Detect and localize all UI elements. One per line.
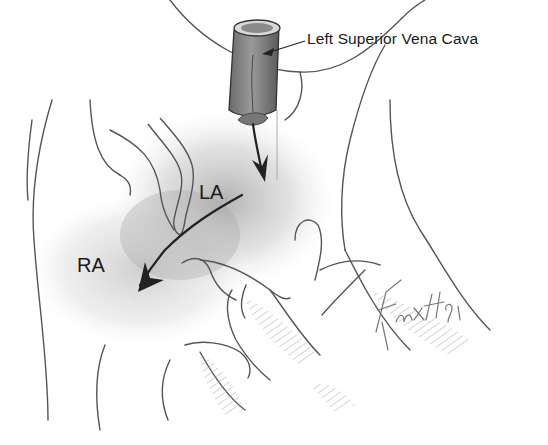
artist-signature: Fuxx#91 bbox=[366, 262, 476, 352]
heart-illustration bbox=[0, 0, 548, 445]
left-superior-vena-cava bbox=[229, 20, 280, 116]
left-atrium-label: LA bbox=[199, 181, 223, 204]
lsvc-label: Left Superior Vena Cava bbox=[307, 30, 478, 48]
right-atrium-label: RA bbox=[77, 254, 105, 277]
